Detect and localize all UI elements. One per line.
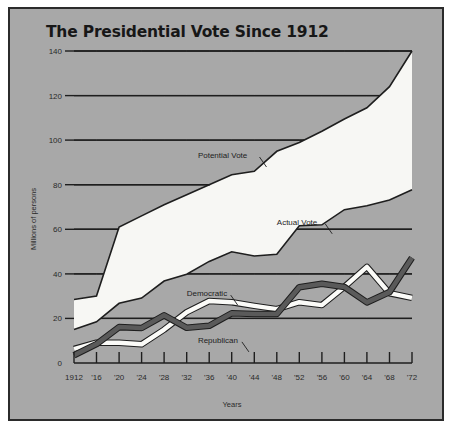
presidential-vote-chart: The Presidential Vote Since 1912 Million… bbox=[10, 9, 442, 419]
y-tick-label: 60 bbox=[53, 225, 62, 234]
x-axis-title: Years bbox=[223, 400, 242, 409]
annotation-potential-vote: Potential Vote bbox=[198, 151, 248, 160]
y-tick-label: 100 bbox=[49, 136, 63, 145]
x-tick-label: '72 bbox=[407, 373, 418, 382]
chart-plate: The Presidential Vote Since 1912 Million… bbox=[8, 7, 444, 421]
figure-root: The Presidential Vote Since 1912 Million… bbox=[0, 0, 460, 441]
x-tick-label: '20 bbox=[114, 373, 125, 382]
x-tick-label: '32 bbox=[181, 373, 192, 382]
chart-title: The Presidential Vote Since 1912 bbox=[46, 23, 329, 41]
x-tick-label: 1912 bbox=[65, 373, 83, 382]
y-tick-label: 0 bbox=[58, 359, 63, 368]
x-tick-label: '60 bbox=[339, 373, 350, 382]
x-tick-label: '56 bbox=[317, 373, 328, 382]
x-axis-ticks bbox=[74, 352, 412, 363]
y-tick-label: 20 bbox=[53, 314, 62, 323]
x-tick-label: '48 bbox=[272, 373, 283, 382]
y-axis-tick-labels: 020406080100120140 bbox=[49, 47, 74, 368]
x-tick-label: '40 bbox=[226, 373, 237, 382]
annotation-republican: Republican bbox=[198, 336, 238, 345]
x-axis-tick-labels: 1912'16'20'24'28'32'36'40'44'48'52'56'60… bbox=[65, 373, 418, 382]
x-tick-label: '68 bbox=[384, 373, 395, 382]
x-tick-label: '28 bbox=[159, 373, 170, 382]
x-tick-label: '44 bbox=[249, 373, 260, 382]
annotation-leader-line bbox=[242, 342, 249, 352]
y-tick-label: 80 bbox=[53, 181, 62, 190]
y-tick-label: 40 bbox=[53, 270, 62, 279]
annotation-actual-vote: Actual Vote bbox=[277, 218, 318, 227]
y-tick-label: 120 bbox=[49, 92, 63, 101]
y-tick-label: 140 bbox=[49, 47, 63, 56]
potential-vote-area bbox=[74, 51, 412, 330]
figure-caption bbox=[6, 427, 454, 439]
x-tick-label: '36 bbox=[204, 373, 215, 382]
x-tick-label: '52 bbox=[294, 373, 305, 382]
y-axis-title: Millions of persons bbox=[29, 188, 38, 250]
annotation-democratic: Democratic bbox=[187, 289, 227, 298]
x-tick-label: '16 bbox=[91, 373, 102, 382]
x-tick-label: '24 bbox=[136, 373, 147, 382]
x-tick-label: '64 bbox=[362, 373, 373, 382]
